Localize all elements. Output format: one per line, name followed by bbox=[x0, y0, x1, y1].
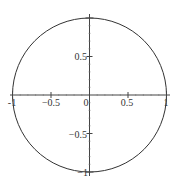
x-tick-label-05: 0.5 bbox=[121, 97, 134, 108]
x-tick-label-1: 1 bbox=[164, 97, 169, 108]
y-tick-label-05: 0.5 bbox=[75, 51, 88, 62]
x-tick-label-neg1: -1 bbox=[8, 97, 16, 108]
plot-area: -1 −0.5 0 0.5 1 0.5 −0.5 −1 bbox=[0, 0, 177, 188]
x-tick-label-neg05: −0.5 bbox=[42, 97, 60, 108]
y-tick-label-neg1: −1 bbox=[77, 167, 88, 178]
x-tick-label-0: 0 bbox=[84, 97, 89, 108]
y-tick-label-neg05: −0.5 bbox=[69, 129, 87, 140]
